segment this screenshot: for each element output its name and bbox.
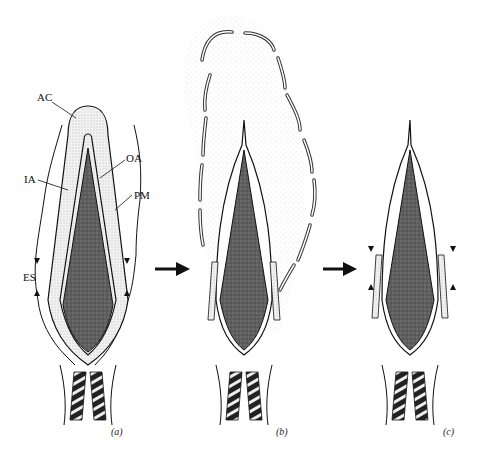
label-inner-acrosomal-membrane: IA <box>24 174 36 185</box>
label-outer-acrosomal-membrane: OA <box>126 153 142 164</box>
panel-b <box>184 15 315 425</box>
caption-panel-b: (b) <box>276 427 288 437</box>
panel-a <box>34 102 141 425</box>
label-plasma-membrane: PM <box>134 190 150 201</box>
acrosome-reaction-diagram <box>0 0 485 463</box>
caption-panel-a: (a) <box>111 427 123 437</box>
panel-c <box>368 120 456 425</box>
arrow-a-to-b <box>155 262 190 276</box>
label-equatorial-segment: ES <box>23 272 36 283</box>
arrow-b-to-c <box>323 262 357 276</box>
caption-panel-c: (c) <box>443 427 454 437</box>
label-acrosomal-cap: AC <box>37 92 52 103</box>
